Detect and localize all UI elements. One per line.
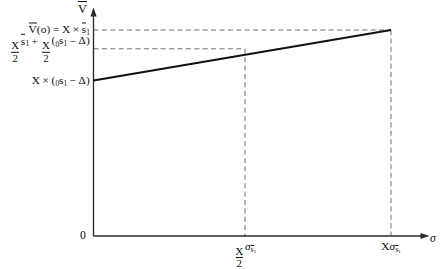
y-label-base: X×(0s1−Δ) xyxy=(32,75,90,88)
y-label-base-times: × xyxy=(40,74,51,86)
y-axis-name-text: V xyxy=(78,2,87,15)
y-axis-name: V xyxy=(78,2,87,15)
y-label-middle-close: ) xyxy=(86,34,90,46)
y-label-top-x: X xyxy=(62,23,70,35)
x-label-middle-sigma-sub-num: 1 xyxy=(254,249,256,254)
y-label-middle: X 2 s1+ X 2 (0s1−Δ) xyxy=(10,35,90,63)
data-line-vbar xyxy=(94,30,392,81)
x-label-middle-frac-num: X xyxy=(234,246,244,257)
x-label-middle-fraction: X 2 xyxy=(234,246,244,269)
x-axis-name: σ xyxy=(430,233,436,245)
y-label-middle-minus: − xyxy=(67,34,78,46)
y-label-middle-frac1-den: 2 xyxy=(11,51,19,63)
figure-container: V(o)=X×s1 X 2 s1+ X 2 (0s1−Δ) X×(0s1−Δ) … xyxy=(0,0,444,269)
x-axis-arrowhead xyxy=(421,233,430,239)
y-label-middle-plus: + xyxy=(29,34,40,46)
x-label-right: Xσs1 xyxy=(381,241,401,255)
y-label-top-vbar: V xyxy=(28,23,36,35)
y-label-top-times: × xyxy=(70,23,81,35)
y-label-middle-frac2-den: 2 xyxy=(42,51,50,63)
y-label-middle-frac2-num: X xyxy=(41,40,51,51)
y-label-middle-sbar: s xyxy=(21,35,26,47)
x-label-middle: X 2 σs1 xyxy=(234,241,256,269)
origin-label: 0 xyxy=(80,230,86,242)
y-label-base-minus: − xyxy=(67,74,78,86)
y-label-top-paren: (o) xyxy=(37,23,51,35)
x-label-middle-frac-den: 2 xyxy=(236,257,244,269)
y-label-base-close: ) xyxy=(86,74,90,86)
y-label-middle-frac1-num: X xyxy=(10,40,20,51)
y-axis-arrowhead xyxy=(90,8,96,17)
x-label-middle-sigma-sub: s1 xyxy=(251,245,256,254)
x-label-right-sigma-sub-s: s xyxy=(395,246,398,254)
y-label-middle-fraction-1: X 2 xyxy=(10,40,20,63)
y-label-top-equals: = xyxy=(51,23,62,35)
x-label-middle-sigma-sub-s: s xyxy=(251,246,254,254)
y-label-middle-fraction-2: X 2 xyxy=(41,40,51,63)
x-label-right-sigma-sub: s1 xyxy=(395,245,400,254)
x-label-right-sigma-sub-num: 1 xyxy=(398,249,400,254)
